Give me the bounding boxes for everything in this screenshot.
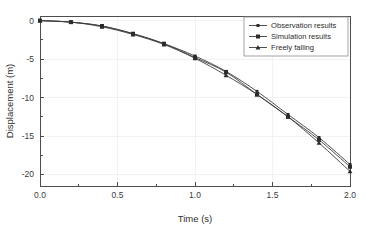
data-point-marker	[348, 165, 352, 169]
legend-entry-label: Simulation results	[271, 32, 331, 41]
y-tick-label: -20	[22, 169, 35, 179]
legend-entry-label: Freely falling	[271, 43, 314, 52]
minor-ticks	[40, 40, 311, 186]
y-tick-label: -15	[22, 131, 35, 141]
data-point-marker	[256, 35, 260, 39]
chart-figure: 0.00.51.01.52.0 0-5-10-15-20 Time (s) Di…	[0, 0, 367, 234]
x-tick-label: 0.5	[112, 190, 124, 200]
x-axis-tick-labels: 0.00.51.01.52.0	[34, 190, 356, 200]
y-axis-title: Displacement (m)	[4, 64, 15, 138]
y-tick-label: -5	[26, 54, 34, 64]
y-axis-tick-labels: 0-5-10-15-20	[22, 16, 35, 180]
chart-canvas: 0.00.51.01.52.0 0-5-10-15-20 Time (s) Di…	[0, 0, 367, 234]
chart-legend: Observation resultsSimulation resultsFre…	[244, 17, 348, 56]
x-axis-title: Time (s)	[178, 213, 212, 224]
x-tick-label: 1.5	[267, 190, 279, 200]
x-tick-label: 1.0	[189, 190, 201, 200]
x-tick-label: 0.0	[34, 190, 46, 200]
y-tick-label: -10	[22, 93, 35, 103]
x-tick-label: 2.0	[344, 190, 356, 200]
legend-entry-label: Observation results	[271, 21, 337, 30]
data-point-marker	[257, 24, 260, 27]
y-tick-label: 0	[29, 16, 34, 26]
